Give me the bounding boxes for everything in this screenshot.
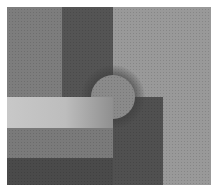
image-frame (7, 7, 211, 185)
mid-bar (7, 128, 113, 158)
bright-bar (7, 97, 113, 128)
bottom-band (7, 158, 113, 185)
